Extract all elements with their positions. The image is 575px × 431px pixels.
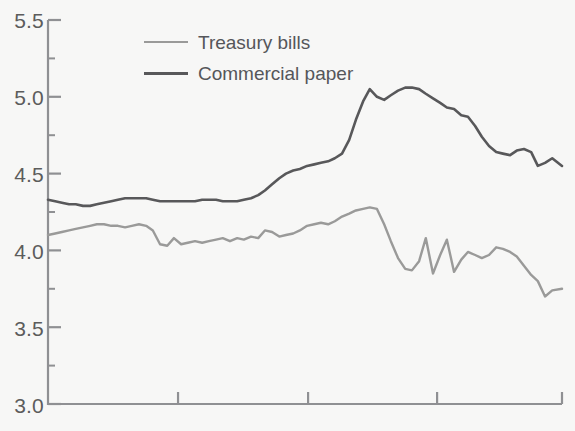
- line-chart: 5.5 5.0 4.5 4.0 3.5 3.0 Treasury bills C…: [0, 0, 575, 431]
- y-axis-tick-label: 5.5: [0, 10, 44, 31]
- legend-item-treasury-bills: Treasury bills: [144, 31, 353, 53]
- y-axis-tick-label: 4.0: [0, 241, 44, 262]
- legend-swatch-commercial-paper: [144, 72, 188, 75]
- legend-item-commercial-paper: Commercial paper: [144, 62, 353, 84]
- chart-legend: Treasury bills Commercial paper: [144, 31, 353, 84]
- legend-swatch-treasury-bills: [144, 41, 188, 43]
- legend-label-treasury-bills: Treasury bills: [198, 33, 310, 52]
- legend-label-commercial-paper: Commercial paper: [198, 64, 353, 83]
- y-axis-tick-label: 3.0: [0, 395, 44, 416]
- y-axis-tick-label: 3.5: [0, 318, 44, 339]
- y-axis-tick-label: 4.5: [0, 164, 44, 185]
- y-axis-tick-label: 5.0: [0, 87, 44, 108]
